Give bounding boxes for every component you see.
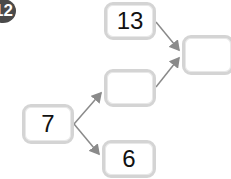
box-right-blank[interactable] — [182, 35, 231, 75]
box-middle-blank[interactable] — [104, 69, 156, 107]
box-bottom: 6 — [102, 140, 156, 178]
arrow-middle-to-right — [156, 58, 179, 87]
box-top: 13 — [104, 2, 156, 40]
arrow-7-to-6 — [74, 124, 99, 154]
box-start: 7 — [22, 104, 74, 144]
arrow-13-to-right — [156, 22, 179, 50]
arrow-7-to-middle — [74, 93, 101, 124]
